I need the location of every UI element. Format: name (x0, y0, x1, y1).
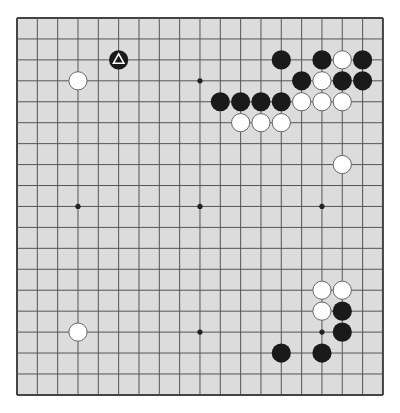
black-stone[interactable] (272, 50, 291, 69)
star-point (319, 204, 324, 209)
white-stone[interactable] (69, 323, 87, 341)
black-stone[interactable] (333, 323, 352, 342)
white-stone[interactable] (333, 93, 351, 111)
black-stone[interactable] (272, 343, 291, 362)
black-stone[interactable] (353, 71, 372, 90)
white-stone[interactable] (333, 281, 351, 299)
white-stone[interactable] (69, 72, 87, 90)
white-stone[interactable] (333, 51, 351, 69)
go-board-canvas[interactable] (0, 0, 400, 413)
black-stone[interactable] (333, 302, 352, 321)
star-point (197, 78, 202, 83)
white-stone[interactable] (333, 155, 351, 173)
star-point (319, 330, 324, 335)
go-board[interactable] (0, 0, 400, 413)
white-stone[interactable] (293, 93, 311, 111)
star-point (197, 204, 202, 209)
white-stone[interactable] (252, 114, 270, 132)
black-stone[interactable] (333, 71, 352, 90)
white-stone[interactable] (272, 114, 290, 132)
white-stone[interactable] (313, 302, 331, 320)
black-stone[interactable] (312, 50, 331, 69)
star-point (197, 330, 202, 335)
white-stone[interactable] (313, 281, 331, 299)
star-point (75, 204, 80, 209)
black-stone[interactable] (211, 92, 230, 111)
black-stone[interactable] (312, 343, 331, 362)
black-stone[interactable] (353, 50, 372, 69)
black-stone[interactable] (251, 92, 270, 111)
black-stone[interactable] (292, 71, 311, 90)
black-stone[interactable] (231, 92, 250, 111)
black-stone[interactable] (272, 92, 291, 111)
white-stone[interactable] (313, 93, 331, 111)
white-stone[interactable] (313, 72, 331, 90)
white-stone[interactable] (232, 114, 250, 132)
black-stone[interactable] (109, 50, 128, 69)
